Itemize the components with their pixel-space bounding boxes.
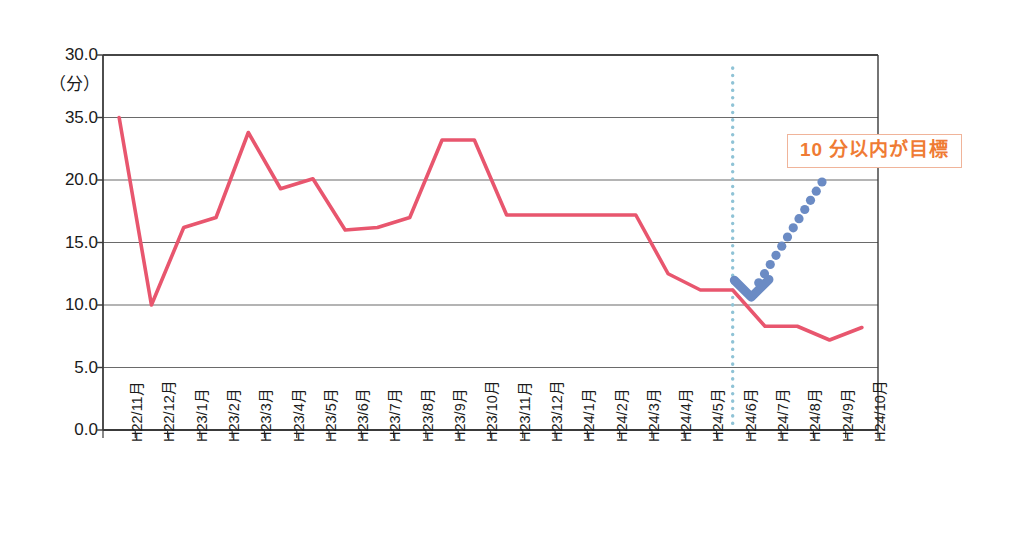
x-tick-label-11: H23/10月 <box>480 381 501 442</box>
x-tick-label-23: H24/10月 <box>868 381 889 442</box>
x-tick-label-21: H24/8月 <box>803 389 824 442</box>
x-tick-label-9: H23/8月 <box>416 389 437 442</box>
x-tick-label-20: H24/7月 <box>771 389 792 442</box>
x-tick-label-18: H24/5月 <box>706 389 727 442</box>
x-tick-label-17: H24/4月 <box>674 389 695 442</box>
x-tick-label-7: H23/6月 <box>351 389 372 442</box>
trend-arrow-dot-3 <box>766 260 775 269</box>
trend-arrow-dot-4 <box>771 251 780 260</box>
trend-arrow-dot-5 <box>777 242 786 251</box>
x-tick-label-3: H23/2月 <box>222 389 243 442</box>
trend-arrow-dot-8 <box>794 214 803 223</box>
trend-arrow-dot-7 <box>789 223 798 232</box>
x-tick-label-2: H23/1月 <box>190 389 211 442</box>
trend-arrow-dot-9 <box>800 205 809 214</box>
x-tick-label-13: H23/12月 <box>545 381 566 442</box>
trend-arrow-dot-10 <box>806 196 815 205</box>
x-tick-label-15: H24/2月 <box>610 389 631 442</box>
target-callout: 10 分以内が目標 <box>787 134 962 168</box>
x-tick-label-6: H23/5月 <box>319 389 340 442</box>
trend-arrow-dot-11 <box>812 187 821 196</box>
trend-arrow-dot-6 <box>783 232 792 241</box>
x-tick-label-4: H23/3月 <box>254 389 275 442</box>
x-tick-label-5: H23/4月 <box>287 389 308 442</box>
x-tick-label-0: H22/11月 <box>125 382 146 442</box>
x-tick-label-16: H24/3月 <box>642 389 663 442</box>
x-tick-label-14: H24/1月 <box>577 389 598 442</box>
x-tick-label-8: H23/7月 <box>383 389 404 442</box>
trend-arrow-dot-12 <box>817 177 826 186</box>
plot-area <box>0 0 1009 547</box>
x-tick-label-10: H23/9月 <box>448 389 469 442</box>
x-tick-label-22: H24/9月 <box>836 389 857 442</box>
x-tick-label-12: H23/11月 <box>513 382 534 442</box>
x-tick-label-19: H24/6月 <box>739 389 760 442</box>
chart-canvas: 30.0 （分） 35.0 20.0 15.0 10.0 5.0 0.0 H22… <box>0 0 1009 547</box>
x-tick-label-1: H22/12月 <box>157 381 178 442</box>
